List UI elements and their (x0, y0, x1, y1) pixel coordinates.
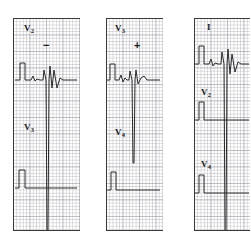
ecg-figure: V2 V3 − V3 V4 + I V2 V4 (0, 0, 251, 247)
lead-label-v4: V4 (201, 160, 211, 169)
lead-label-i: I (207, 23, 211, 32)
lead-label-v4: V4 (115, 128, 125, 137)
lead-label-v2: V2 (201, 88, 211, 97)
lead-label-v2: V2 (24, 24, 34, 33)
polarity-plus-sign: + (134, 40, 140, 51)
ecg-panel-2: V3 V4 + (106, 18, 163, 231)
lead-label-v3: V3 (115, 24, 125, 33)
ecg-panel-1: V2 V3 − (13, 18, 80, 231)
lead-label-v3: V3 (24, 123, 34, 132)
ecg-grid-paper (194, 18, 250, 231)
ecg-panel-3: I V2 V4 (194, 18, 250, 231)
polarity-minus-sign: − (43, 40, 49, 51)
